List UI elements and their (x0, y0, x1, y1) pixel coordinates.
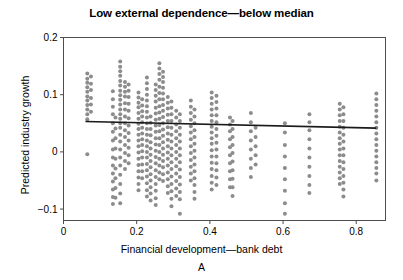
data-point (123, 114, 127, 118)
data-point (166, 157, 170, 161)
data-point (118, 201, 122, 205)
data-point (231, 143, 235, 147)
data-point (157, 143, 161, 147)
data-point (166, 125, 170, 129)
data-point (113, 176, 117, 180)
data-point (154, 124, 158, 128)
data-point (154, 182, 158, 186)
data-point (149, 127, 153, 131)
data-point (210, 119, 214, 123)
data-point (113, 136, 117, 140)
data-point (161, 92, 165, 96)
x-tick-label: 0.4 (203, 226, 217, 237)
data-point (169, 204, 173, 208)
data-point (85, 72, 89, 76)
data-point (192, 190, 196, 194)
data-point (118, 164, 122, 168)
data-point (157, 136, 161, 140)
data-point (338, 142, 342, 146)
data-point (154, 88, 158, 92)
data-point (283, 166, 287, 170)
data-point (307, 165, 311, 169)
data-point (140, 132, 144, 136)
data-point (111, 97, 115, 101)
data-point (214, 148, 218, 152)
data-point (145, 127, 149, 131)
data-point (149, 133, 153, 137)
data-point (145, 81, 149, 85)
data-point (210, 102, 214, 106)
data-point (249, 111, 253, 115)
data-point (338, 148, 342, 152)
data-point (118, 117, 122, 121)
data-point (231, 135, 235, 139)
data-point (118, 156, 122, 160)
data-point (85, 117, 89, 121)
data-point (127, 82, 131, 86)
data-point (85, 90, 89, 94)
data-point (157, 117, 161, 121)
data-point (145, 168, 149, 172)
data-point (341, 112, 345, 116)
data-point (338, 182, 342, 186)
data-point (137, 138, 141, 142)
data-point (210, 142, 214, 146)
data-point (374, 114, 378, 118)
data-point (189, 98, 193, 102)
data-point (113, 166, 117, 170)
data-point (118, 89, 122, 93)
data-point (231, 194, 235, 198)
data-point (118, 60, 122, 64)
data-point (210, 96, 214, 100)
data-point (214, 141, 218, 145)
data-point (174, 186, 178, 190)
data-point (374, 143, 378, 147)
data-point (145, 156, 149, 160)
data-point (374, 120, 378, 124)
data-point (210, 130, 214, 134)
data-point (178, 175, 182, 179)
data-point (210, 90, 214, 94)
data-point (154, 136, 158, 140)
data-point (161, 179, 165, 183)
data-point (154, 168, 158, 172)
x-axis-title: Financial development—bank debt (0, 243, 403, 255)
data-point (341, 174, 345, 178)
data-point (89, 88, 93, 92)
data-point (161, 134, 165, 138)
data-point (161, 172, 165, 176)
data-point (249, 157, 253, 161)
data-point (189, 144, 193, 148)
data-point (154, 130, 158, 134)
data-point (169, 140, 173, 144)
data-point (210, 113, 214, 117)
data-point (169, 133, 173, 137)
data-point (189, 151, 193, 155)
data-point (157, 110, 161, 114)
data-point (118, 74, 122, 78)
data-point (137, 105, 141, 109)
data-point (174, 179, 178, 183)
data-point (123, 90, 127, 94)
data-point (113, 157, 117, 161)
data-point (154, 94, 158, 98)
data-point (169, 182, 173, 186)
data-point (157, 177, 161, 181)
data-point (161, 153, 165, 157)
data-point (145, 188, 149, 192)
data-point (283, 212, 287, 216)
data-point (210, 161, 214, 165)
data-point (127, 89, 131, 93)
data-point (85, 98, 89, 102)
data-point (161, 75, 165, 79)
data-point (154, 142, 158, 146)
data-point (192, 114, 196, 118)
data-point (127, 153, 131, 157)
data-point (161, 165, 165, 169)
data-point (178, 182, 182, 186)
data-point (341, 140, 345, 144)
data-point (174, 136, 178, 140)
data-point (140, 162, 144, 166)
data-point (127, 131, 131, 135)
data-point (123, 151, 127, 155)
